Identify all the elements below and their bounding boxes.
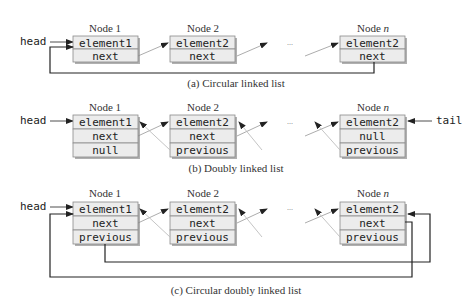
node-n: element2 null previous (340, 115, 407, 159)
field-previous: previous (79, 231, 132, 244)
caption-a: (a) Circular linked list (187, 77, 284, 90)
caption-c: (c) Circular doubly linked list (171, 284, 302, 297)
section-b-doubly-linked-list: Node 1 Node 2 Node n head element1 next … (20, 101, 463, 175)
field-element: element2 (176, 116, 229, 129)
field-element: element2 (176, 203, 229, 216)
field-element: element1 (79, 203, 132, 216)
field-element: element2 (346, 203, 399, 216)
node-1: element1 next (73, 36, 140, 64)
field-next: null (359, 130, 386, 143)
node-n: element2 next previous (340, 202, 407, 246)
field-previous: previous (346, 144, 399, 157)
caption-b: (b) Doubly linked list (188, 162, 283, 175)
node-n-title: Node n (357, 22, 390, 34)
node-n: element2 next (340, 36, 407, 64)
field-previous: null (92, 144, 119, 157)
ellipsis: ... (287, 38, 293, 47)
field-element: element2 (346, 37, 399, 50)
field-previous: previous (176, 144, 229, 157)
head-label: head (20, 200, 47, 213)
linked-list-diagram: Node 1 Node 2 Node n head element1 next … (0, 0, 473, 302)
ellipsis: ... (287, 203, 293, 212)
node-n-title: Node n (357, 187, 390, 199)
section-c-circular-doubly-linked-list: Node 1 Node 2 Node n head element1 next … (20, 187, 430, 297)
field-element: element2 (346, 116, 399, 129)
tail-label: tail (436, 114, 463, 127)
node-1-title: Node 1 (89, 101, 121, 113)
field-previous: previous (176, 231, 229, 244)
field-next: next (189, 130, 216, 143)
section-a-circular-linked-list: Node 1 Node 2 Node n head element1 next … (20, 22, 407, 90)
field-next: next (359, 50, 386, 63)
node-2: element2 next previous (170, 202, 237, 246)
node-2-title: Node 2 (187, 187, 219, 199)
head-label: head (20, 35, 47, 48)
node-1: element1 next previous (73, 202, 140, 246)
node-2: element2 next previous (170, 115, 237, 159)
node-2-title: Node 2 (187, 22, 219, 34)
field-next: next (189, 50, 216, 63)
node-2: element2 next (170, 36, 237, 64)
node-2-title: Node 2 (187, 101, 219, 113)
field-previous: previous (346, 231, 399, 244)
field-next: next (359, 217, 386, 230)
node-1: element1 next null (73, 115, 140, 159)
ellipsis: ... (287, 117, 293, 126)
node-n-title: Node n (357, 101, 390, 113)
field-element: element2 (176, 37, 229, 50)
head-label: head (20, 114, 47, 127)
node-1-title: Node 1 (89, 187, 121, 199)
node-1-title: Node 1 (89, 22, 121, 34)
field-next: next (92, 50, 119, 63)
field-element: element1 (79, 37, 132, 50)
field-next: next (189, 217, 216, 230)
field-element: element1 (79, 116, 132, 129)
field-next: next (92, 130, 119, 143)
field-next: next (92, 217, 119, 230)
